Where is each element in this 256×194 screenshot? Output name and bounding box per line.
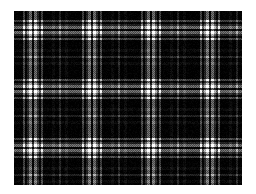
tartan-plaid-image [14,11,242,185]
plaid-swatch-container [0,0,256,194]
